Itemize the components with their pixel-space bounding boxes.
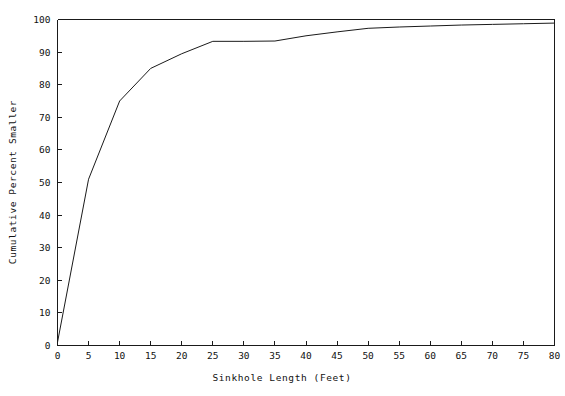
x-tick-label: 45 <box>331 350 342 361</box>
x-tick-label: 0 <box>55 350 61 361</box>
x-tick-label: 15 <box>145 350 156 361</box>
x-tick-label: 20 <box>176 350 188 361</box>
y-tick-label: 30 <box>39 242 51 253</box>
x-tick-label: 55 <box>393 350 404 361</box>
y-tick-label: 90 <box>39 47 51 58</box>
x-axis-title: Sinkhole Length (Feet) <box>212 372 351 383</box>
y-axis-title: Cumulative Percent Smaller <box>7 100 18 264</box>
y-tick-label: 0 <box>45 340 51 351</box>
y-tick-label: 70 <box>39 112 51 123</box>
x-tick-label: 75 <box>518 350 529 361</box>
y-tick-label: 40 <box>39 210 51 221</box>
cumulative-distribution-chart: 05101520253035404550556065707580 0102030… <box>0 0 565 396</box>
x-tick-label: 35 <box>269 350 280 361</box>
x-tick-label: 50 <box>362 350 374 361</box>
y-tick-label: 60 <box>39 144 51 155</box>
x-tick-label: 25 <box>207 350 218 361</box>
x-tick-label: 65 <box>456 350 467 361</box>
y-tick-label: 100 <box>33 14 50 25</box>
chart-figure: 05101520253035404550556065707580 0102030… <box>0 0 565 396</box>
x-tick-label: 10 <box>114 350 126 361</box>
y-tick-label: 50 <box>39 177 51 188</box>
y-tick-label: 80 <box>39 79 51 90</box>
x-tick-label: 80 <box>549 350 561 361</box>
y-tick-label: 20 <box>39 275 51 286</box>
x-tick-label: 40 <box>300 350 312 361</box>
x-tick-label: 60 <box>425 350 437 361</box>
x-tick-label: 70 <box>487 350 499 361</box>
x-tick-label: 5 <box>86 350 92 361</box>
y-tick-label: 10 <box>39 307 51 318</box>
x-tick-label: 30 <box>238 350 250 361</box>
